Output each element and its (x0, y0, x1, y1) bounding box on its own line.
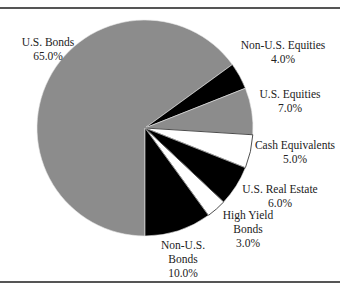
label-name: Cash Equivalents (250, 138, 340, 152)
label-non-us-bonds: Non-U.S. Bonds 10.0% (153, 238, 213, 280)
label-value: 3.0% (218, 236, 278, 250)
label-name: High Yield (218, 208, 278, 222)
label-non-us-equities: Non-U.S. Equities 4.0% (228, 38, 338, 66)
label-value: 7.0% (250, 101, 330, 115)
label-us-real-estate: U.S. Real Estate 6.0% (235, 182, 325, 210)
label-name: U.S. Equities (250, 87, 330, 101)
label-name: U.S. Bonds (8, 35, 88, 49)
label-name: U.S. Real Estate (235, 182, 325, 196)
label-high-yield-bonds: High Yield Bonds 3.0% (218, 208, 278, 250)
label-us-bonds: U.S. Bonds 65.0% (8, 35, 88, 63)
label-value: 4.0% (228, 52, 338, 66)
label-value: 5.0% (250, 152, 340, 166)
label-name: Non-U.S. (153, 238, 213, 252)
label-name: Bonds (218, 222, 278, 236)
label-us-equities: U.S. Equities 7.0% (250, 87, 330, 115)
label-cash-equivalents: Cash Equivalents 5.0% (250, 138, 340, 166)
label-value: 10.0% (153, 266, 213, 280)
label-name: Bonds (153, 252, 213, 266)
label-value: 65.0% (8, 49, 88, 63)
label-name: Non-U.S. Equities (228, 38, 338, 52)
